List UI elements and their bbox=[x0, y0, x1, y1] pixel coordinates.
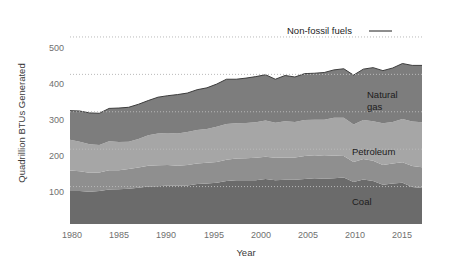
x-tick-1995: 1995 bbox=[204, 230, 224, 240]
series-label-natural-gas-line2: gas bbox=[367, 101, 383, 112]
y-tick-200: 200 bbox=[49, 151, 64, 161]
y-tick-400: 400 bbox=[49, 79, 64, 89]
energy-stacked-area-chart: 500 400 300 200 100 1980 1985 1990 1995 … bbox=[0, 0, 452, 266]
series-label-petroleum: Petroleum bbox=[352, 146, 395, 157]
x-tick-1990: 1990 bbox=[156, 230, 176, 240]
x-tick-1980: 1980 bbox=[62, 230, 82, 240]
series-label-coal: Coal bbox=[352, 196, 372, 207]
y-tick-100: 100 bbox=[49, 187, 64, 197]
y-axis-title: Quadrillion BTUs Generated bbox=[16, 63, 27, 182]
series-label-non-fossil-fuels: Non-fossil fuels bbox=[287, 25, 352, 36]
x-tick-2005: 2005 bbox=[298, 230, 318, 240]
y-tick-300: 300 bbox=[49, 115, 64, 125]
x-tick-2000: 2000 bbox=[251, 230, 271, 240]
series-label-natural-gas-line1: Natural bbox=[367, 89, 398, 100]
x-tick-2010: 2010 bbox=[345, 230, 365, 240]
x-axis-title: Year bbox=[236, 247, 255, 258]
x-tick-1985: 1985 bbox=[109, 230, 129, 240]
x-tick-2015: 2015 bbox=[392, 230, 412, 240]
y-tick-500: 500 bbox=[49, 43, 64, 53]
chart-svg: 500 400 300 200 100 1980 1985 1990 1995 … bbox=[0, 0, 452, 266]
